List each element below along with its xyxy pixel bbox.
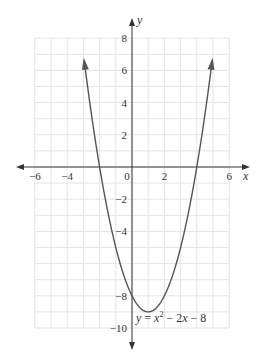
y-tick-label: −10 (110, 322, 128, 334)
parabola-graph: −6−42608642−2−4−8−10 x y y = x2 − 2x − 8 (0, 0, 267, 352)
eq-minus-2: − 2 (163, 311, 182, 325)
origin-label: 0 (124, 170, 130, 182)
x-tick-label: 6 (226, 170, 232, 182)
y-axis-up-arrow-icon (129, 18, 135, 26)
y-tick-label: 2 (122, 129, 128, 141)
x-tick-label: 2 (162, 170, 168, 182)
y-tick-label: 6 (122, 64, 128, 76)
x-tick-label: −4 (61, 170, 73, 182)
y-tick-label: 8 (122, 32, 128, 44)
y-tick-label: −4 (115, 225, 127, 237)
y-axis-label: y (136, 13, 143, 27)
y-axis-down-arrow-icon (129, 342, 135, 350)
y-tick-label: −2 (115, 193, 127, 205)
x-axis-left-arrow-icon (16, 164, 24, 170)
x-axis-label: x (242, 169, 249, 183)
y-tick-label: 4 (122, 97, 128, 109)
eq-minus-8: − 8 (188, 311, 207, 325)
y-tick-label: −8 (115, 290, 127, 302)
eq-equals: = (141, 311, 154, 325)
x-tick-label: −6 (29, 170, 41, 182)
equation-label: y = x2 − 2x − 8 (135, 310, 206, 325)
